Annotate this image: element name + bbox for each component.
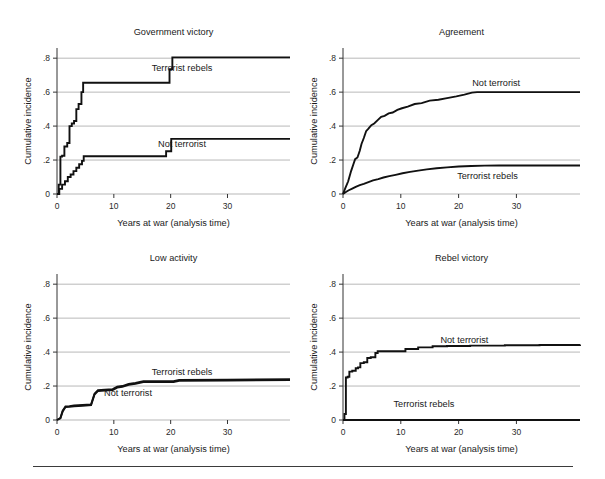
y-tick-label: .2	[43, 381, 50, 391]
series-label-terrorist-rebels: Terrorist rebels	[394, 399, 455, 409]
y-tick-label: .2	[329, 381, 336, 391]
panel-title: Rebel victory	[435, 253, 489, 263]
panel-bottom-left: 0.2.4.6.80102030Terrorist rebelsNot terr…	[0, 0, 302, 479]
cumulative-incidence-figure: 0.2.4.6.80102030Terrorist rebelsNot terr…	[0, 0, 605, 479]
panel-bottom-right: 0.2.4.6.80102030Not terroristTerrorist r…	[303, 0, 605, 479]
x-tick-label: 20	[166, 427, 176, 437]
y-tick-label: .6	[43, 313, 50, 323]
x-tick-label: 10	[109, 427, 119, 437]
series-label-terrorist-rebels: Terrorist rebels	[152, 367, 213, 377]
y-axis-title: Cumulative incidence	[23, 303, 33, 390]
y-tick-label: .8	[329, 279, 336, 289]
panel-title: Low activity	[150, 253, 198, 263]
y-tick-label: 0	[45, 415, 50, 425]
y-tick-label: .4	[329, 347, 336, 357]
x-tick-label: 20	[454, 427, 464, 437]
series-label-not-terrorist: Not terrorist	[440, 335, 488, 345]
y-tick-label: .4	[43, 347, 50, 357]
x-axis-title: Years at war (analysis time)	[405, 444, 518, 454]
y-axis-title: Cumulative incidence	[309, 303, 319, 390]
x-tick-label: 10	[396, 427, 406, 437]
x-axis-title: Years at war (analysis time)	[117, 444, 230, 454]
curve-not-terrorist	[343, 345, 580, 420]
x-tick-label: 0	[341, 427, 346, 437]
x-tick-label: 30	[512, 427, 522, 437]
y-tick-label: .8	[43, 279, 50, 289]
x-tick-label: 0	[55, 427, 60, 437]
series-label-not-terrorist: Not terrorist	[104, 388, 152, 398]
y-tick-label: .6	[329, 313, 336, 323]
y-tick-label: 0	[331, 415, 336, 425]
x-tick-label: 30	[223, 427, 233, 437]
